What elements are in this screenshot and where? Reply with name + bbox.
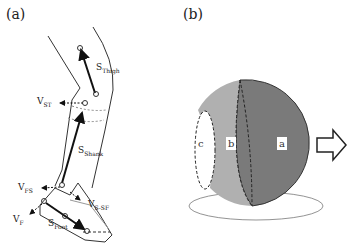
ball (195, 80, 309, 206)
label-v-s-sf: VS-SF (88, 199, 109, 211)
direction-arrow-icon (317, 130, 346, 160)
segment-a-label: a (277, 137, 287, 150)
label-v-fs: VFS (18, 182, 33, 194)
label-v-f: VF (13, 214, 24, 226)
label-s-thigh: SThigh (96, 62, 120, 74)
diagram-graphics (0, 0, 355, 250)
label-s-shank: SShank (78, 145, 103, 157)
label-v-st: VST (37, 96, 52, 108)
segment-c-label: c (196, 137, 206, 150)
label-s-foot: SFoot (48, 218, 68, 230)
shoe (40, 183, 112, 242)
segment-b-label: b (226, 137, 236, 150)
